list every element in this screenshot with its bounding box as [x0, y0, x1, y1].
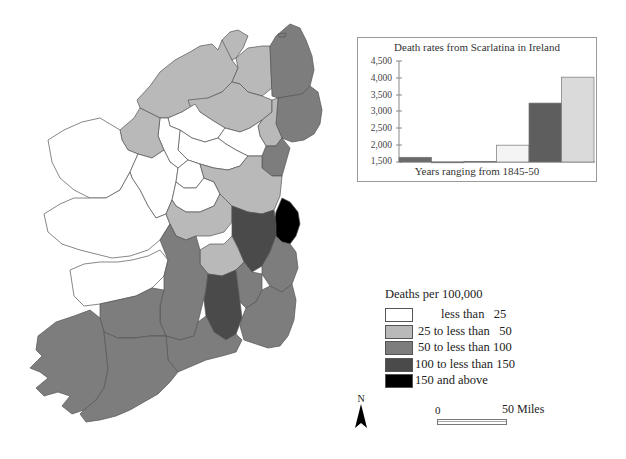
north-arrow: N: [353, 393, 369, 432]
legend-label: 50 to less than 100: [418, 340, 512, 355]
legend-label: 25 to less than 50: [418, 324, 512, 339]
chart-bar: [529, 103, 562, 162]
legend-swatch: [385, 341, 413, 355]
chart-bar: [464, 161, 497, 162]
county-kerry: [30, 310, 108, 414]
county-antrim: [270, 24, 314, 98]
chart-bar: [432, 162, 465, 163]
scale-end-label: 50 Miles: [502, 402, 544, 417]
scarlatina-bar-chart: Death rates from Scarlatina in Ireland 4…: [357, 37, 597, 182]
legend-label: 150 and above: [415, 373, 488, 388]
chart-x-axis-label: Years ranging from 1845-50: [358, 165, 596, 177]
legend-label: 100 to less than 150: [415, 357, 515, 372]
north-label: N: [353, 393, 369, 404]
scale-start-label: 0: [435, 404, 441, 416]
chart-bar: [497, 145, 530, 162]
legend-item: 150 and above: [385, 374, 555, 391]
island-rathlin: [278, 33, 286, 37]
legend-item: less than 25: [385, 308, 555, 325]
county-dublin: [274, 198, 300, 244]
legend-item: 50 to less than 100: [385, 341, 555, 358]
legend-item: 100 to less than 150: [385, 358, 555, 375]
legend-swatch: [385, 308, 413, 322]
chart-bar: [399, 157, 432, 162]
scale-bar: [437, 419, 507, 425]
chart-plot-area: [358, 38, 598, 183]
map-legend: Deaths per 100,000 less than 25 25 to le…: [385, 287, 555, 391]
legend-swatch: [385, 374, 413, 388]
legend-swatch: [385, 358, 413, 372]
legend-label: less than 25: [441, 307, 506, 322]
north-arrow-icon: [353, 404, 369, 430]
chart-bar: [562, 77, 595, 162]
legend-title: Deaths per 100,000: [385, 287, 555, 302]
legend-swatch: [385, 325, 413, 339]
legend-item: 25 to less than 50: [385, 325, 555, 342]
